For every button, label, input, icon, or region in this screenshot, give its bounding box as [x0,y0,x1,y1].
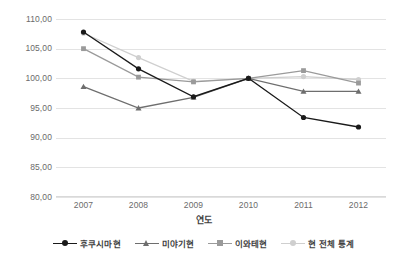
data-point-marker [136,55,141,60]
x-axis-tick-label: 2011 [281,200,327,211]
x-axis-tick-label: 2009 [171,200,217,211]
legend-item[interactable]: 이와테현 [208,237,267,249]
line-chart: 110,00105,00100,0095,0090,0085,0080,00 2… [0,0,407,256]
data-point-marker [356,124,361,129]
data-point-marker [81,84,87,89]
legend-label: 후쿠시마현 [80,237,121,249]
x-axis-title: 연도 [0,213,407,226]
legend-item[interactable]: 미야기현 [135,237,194,249]
legend-swatch-circle-icon [53,238,77,248]
legend-item[interactable]: 현 전체 통계 [281,237,353,249]
legend-label: 현 전체 통계 [308,237,353,249]
x-axis-tick-label: 2007 [61,200,107,211]
x-axis-tick-label: 2010 [226,200,272,211]
data-point-marker [191,79,196,84]
data-point-marker [246,76,251,81]
data-point-marker [81,46,86,51]
chart-legend: 후쿠시마현미야기현이와테현현 전체 통계 [0,233,407,253]
legend-marker [217,240,223,246]
legend-item[interactable]: 후쿠시마현 [53,237,121,249]
legend-marker [290,240,296,246]
data-point-marker [301,74,306,79]
legend-marker [62,240,68,246]
y-axis: 110,00105,00100,0095,0090,0085,0080,00 [4,19,52,197]
plot-area [56,19,386,197]
y-axis-tick-label: 100,00 [6,74,52,83]
legend-marker [143,240,149,246]
series-layer [56,19,386,197]
data-point-marker [356,81,361,86]
y-axis-tick-label: 105,00 [6,44,52,53]
gridline [56,197,386,198]
legend-swatch-triangle-icon [135,238,159,248]
y-axis-tick-label: 80,00 [6,193,52,202]
x-axis-tick-label: 2008 [116,200,162,211]
data-point-marker [301,115,306,120]
legend-swatch-square-icon [208,238,232,248]
legend-label: 미야기현 [162,237,194,249]
legend-label: 이와테현 [235,237,267,249]
legend-swatch-circle-icon [281,238,305,248]
x-axis: 200720082009201020112012 [56,200,386,214]
data-point-marker [191,94,196,99]
y-axis-tick-label: 85,00 [6,163,52,172]
x-axis-tick-label: 2012 [336,200,382,211]
series-line [84,78,359,108]
data-point-marker [81,29,86,34]
y-axis-tick-label: 95,00 [6,104,52,113]
data-point-marker [301,68,306,73]
y-axis-tick-label: 90,00 [6,133,52,142]
y-axis-tick-label: 110,00 [6,15,52,24]
data-point-marker [136,75,141,80]
data-point-marker [136,66,141,71]
